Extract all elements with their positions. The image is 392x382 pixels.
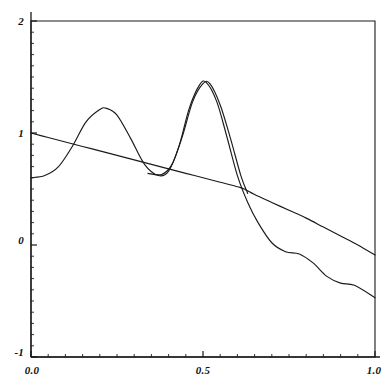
data-curves <box>31 81 375 298</box>
frame-rect <box>31 21 375 357</box>
curve-smooth-decay-curve <box>31 133 375 255</box>
x-tick-label-0-5: 0.5 <box>189 364 217 376</box>
y-tick-label-2: 2 <box>10 15 24 27</box>
x-tick-label-0: 0.0 <box>18 364 46 376</box>
y-tick-label-0: 0 <box>10 234 24 246</box>
figure-canvas: 2 1 0 -1 0.0 0.5 1.0 <box>0 0 392 382</box>
axis-frame <box>31 12 380 357</box>
y-tick-label-1: 1 <box>10 127 24 139</box>
curve-oscillating-curve-1 <box>31 81 375 298</box>
axis-ticks <box>31 21 375 357</box>
y-tick-label-neg1: -1 <box>3 346 24 358</box>
x-tick-label-1: 1.0 <box>360 364 388 376</box>
plot-area <box>0 0 392 382</box>
